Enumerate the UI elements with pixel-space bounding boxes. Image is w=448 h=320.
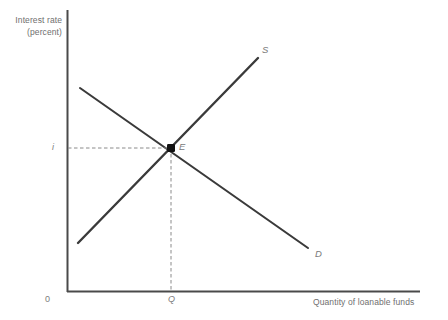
- y-axis-label-line1: Interest rate: [4, 14, 62, 26]
- origin-label: 0: [45, 294, 50, 304]
- y-axis-label: Interest rate (percent): [4, 14, 62, 38]
- equilibrium-rate-label: i: [52, 142, 54, 152]
- equilibrium-quantity-label: Q: [168, 294, 175, 304]
- x-axis-label: Quantity of loanable funds: [313, 296, 414, 308]
- loanable-funds-chart: Interest rate (percent) Quantity of loan…: [0, 0, 448, 320]
- supply-curve-label: S: [262, 44, 269, 55]
- y-axis-label-line2: (percent): [4, 26, 62, 38]
- equilibrium-point-label: E: [179, 141, 186, 152]
- demand-curve: [80, 88, 308, 248]
- equilibrium-point-marker: [167, 144, 175, 152]
- chart-canvas: [0, 0, 448, 320]
- demand-curve-label: D: [315, 248, 322, 259]
